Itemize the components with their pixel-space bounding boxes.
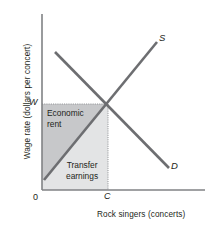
economic-rent-label-line1: Economic (47, 108, 84, 118)
economic-rent-label: Economicrent (47, 108, 84, 129)
x-axis-title: Rock singers (concerts) (97, 210, 185, 219)
economic-rent-label-line2: rent (47, 119, 61, 129)
supply-curve-label: S (159, 32, 165, 43)
chart-figure: Wage rate (dollars per concert) Rock sin… (0, 0, 218, 229)
transfer-earnings-label-line1: Transfer (67, 160, 98, 170)
x-axis-tick-label-c: C (104, 191, 111, 201)
y-axis-tick-label-w: W (29, 97, 38, 107)
transfer-earnings-label: Transferearnings (66, 160, 98, 181)
demand-curve-label: D (171, 160, 178, 171)
origin-label: 0 (33, 192, 38, 202)
transfer-earnings-label-line2: earnings (66, 171, 98, 181)
